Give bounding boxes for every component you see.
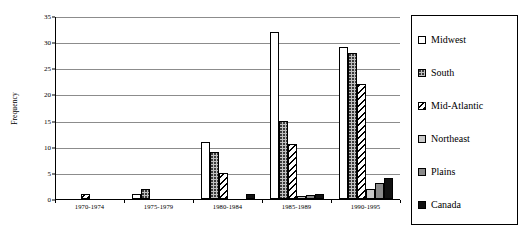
legend-swatch-midwest (418, 36, 426, 44)
legend: MidwestSouthMid-AtlanticNortheastPlainsC… (411, 15, 518, 225)
bar-groups (56, 17, 400, 199)
x-tick-mark (400, 200, 401, 203)
y-tick-label: 20 (44, 91, 51, 99)
y-tick-label: 0 (48, 196, 52, 204)
legend-swatch-mid-atlantic (418, 102, 426, 110)
bar-group-bars (270, 17, 324, 199)
bar (339, 47, 348, 199)
bar-group-bars (339, 17, 393, 199)
bar (81, 194, 90, 199)
legend-swatch-canada (418, 201, 426, 209)
legend-label: Canada (431, 199, 461, 210)
x-axis-labels: 1970-19741975-19791980-19841985-19891990… (55, 203, 400, 210)
y-tick-label: 15 (44, 118, 51, 126)
bar (315, 194, 324, 199)
bar (141, 189, 150, 199)
bar (279, 121, 288, 199)
bar-group-bars (132, 17, 186, 199)
legend-label: Plains (431, 166, 455, 177)
legend-swatch-plains (418, 168, 426, 176)
bar-group-bars (201, 17, 255, 199)
bar (384, 178, 393, 199)
y-tick-label: 30 (44, 39, 51, 47)
bar (375, 183, 384, 199)
legend-label: Midwest (431, 34, 466, 45)
legend-swatch-northeast (418, 135, 426, 143)
bar (132, 194, 141, 199)
bar (246, 194, 255, 199)
x-tick-label: 1985-1989 (262, 203, 331, 210)
bar-chart: Frequency 05101520253035 1970-19741975-1… (0, 0, 522, 242)
x-tick-label: 1975-1979 (124, 203, 193, 210)
bar (297, 196, 306, 199)
legend-item: Northeast (418, 122, 517, 155)
x-tick-label: 1990-1995 (331, 203, 400, 210)
bar (288, 144, 297, 199)
x-tick-label: 1970-1974 (55, 203, 124, 210)
bar (306, 195, 315, 199)
legend-label: Mid-Atlantic (431, 100, 483, 111)
bar-group (56, 17, 125, 199)
bar (348, 53, 357, 199)
bar-group (262, 17, 331, 199)
bar (210, 152, 219, 199)
bar (201, 142, 210, 200)
x-tick-label: 1980-1984 (193, 203, 262, 210)
legend-item: Mid-Atlantic (418, 89, 517, 122)
legend-item: Canada (418, 188, 517, 221)
y-tick-label: 10 (44, 144, 51, 152)
y-tick-label: 35 (44, 13, 51, 21)
legend-item: Plains (418, 155, 517, 188)
legend-item: Midwest (418, 23, 517, 56)
legend-swatch-south (418, 69, 426, 77)
y-axis-ticks: 05101520253035 (0, 17, 55, 200)
bar (219, 173, 228, 199)
bar (366, 189, 375, 199)
y-tick-label: 5 (48, 170, 52, 178)
legend-label: South (431, 67, 454, 78)
bar-group (125, 17, 194, 199)
legend-item: South (418, 56, 517, 89)
bar (270, 32, 279, 199)
legend-label: Northeast (431, 133, 470, 144)
bar-group (331, 17, 400, 199)
y-tick-label: 25 (44, 65, 51, 73)
bar-group-bars (63, 17, 117, 199)
plot-area (55, 17, 400, 200)
bar (357, 84, 366, 199)
bar-group (194, 17, 263, 199)
